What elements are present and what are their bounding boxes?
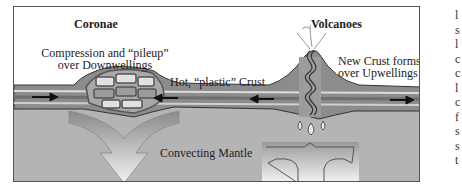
side-text-column: l s l c c l c f s s t [455, 8, 462, 168]
side-text-char: t [455, 153, 462, 168]
side-text-char: f [455, 110, 462, 125]
side-text-char: l [455, 81, 462, 96]
coronae-title: Coronae [74, 17, 118, 32]
volcano-conduit [299, 51, 321, 117]
new-crust-caption: New Crust forms over Upwellings [338, 55, 420, 79]
side-text-char: c [455, 52, 462, 67]
hot-crust-label: Hot, “plastic” Crust [170, 76, 265, 88]
compression-caption: Compression and “pileup” over Downwellin… [34, 47, 176, 71]
side-text-char: c [455, 66, 462, 81]
upwelling-plume-icon [262, 142, 359, 182]
side-text-char: c [455, 95, 462, 110]
diagram-frame: Coronae Volcanoes Compression and “pileu… [13, 6, 420, 182]
volcanoes-title: Volcanoes [311, 17, 362, 32]
side-text-char: s [455, 139, 462, 154]
side-text-char: l [455, 8, 462, 23]
side-text-char: s [455, 23, 462, 38]
compression-caption-line2: over Downwellings [34, 59, 176, 71]
side-text-char: l [455, 37, 462, 52]
new-crust-caption-line2: over Upwellings [338, 67, 420, 79]
corona-pileup [86, 69, 164, 113]
mantle-label: Convecting Mantle [160, 147, 252, 159]
side-text-char: s [455, 124, 462, 139]
